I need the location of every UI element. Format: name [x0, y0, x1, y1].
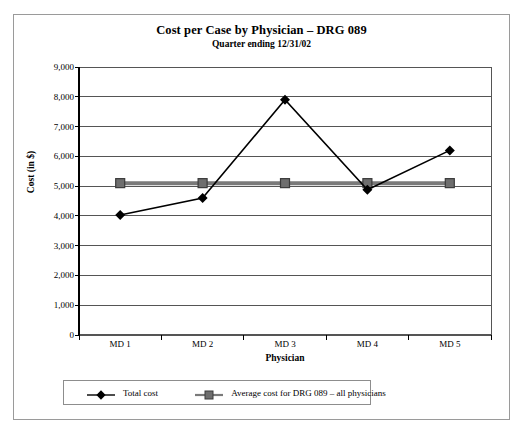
- x-axis-tick-label: MD 5: [409, 339, 491, 353]
- y-axis-tick-label: 8,000: [54, 92, 74, 102]
- y-axis-tick-label: 2,000: [54, 270, 74, 280]
- y-axis-tick-label: 7,000: [54, 122, 74, 132]
- x-axis-tick-label: MD 1: [79, 339, 161, 353]
- chart-title: Cost per Case by Physician – DRG 089: [14, 23, 509, 38]
- legend-entry-total-cost: Total cost: [86, 387, 158, 399]
- y-axis-tick-label: 1,000: [54, 300, 74, 310]
- data-point-marker-diamond: [445, 145, 455, 155]
- series-line-total-cost: [120, 100, 450, 215]
- y-axis-tick-label: 5,000: [54, 181, 74, 191]
- y-axis-tick-label: 3,000: [54, 241, 74, 251]
- title-block: Cost per Case by Physician – DRG 089 Qua…: [14, 23, 509, 51]
- plot-area: [79, 67, 491, 335]
- data-point-marker-square: [281, 179, 290, 188]
- chart-subtitle: Quarter ending 12/31/02: [14, 38, 509, 51]
- x-axis-tick-label: MD 3: [244, 339, 326, 353]
- legend-entry-average-cost: Average cost for DRG 089 – all physician…: [194, 387, 386, 399]
- chart-frame: Cost per Case by Physician – DRG 089 Qua…: [13, 14, 510, 420]
- x-axis-tick-labels: MD 1MD 2MD 3MD 4MD 5: [79, 339, 491, 353]
- y-axis-tick-label: 6,000: [54, 151, 74, 161]
- data-point-marker-square: [116, 179, 125, 188]
- x-axis-title: Physician: [79, 353, 491, 363]
- data-point-marker-square: [198, 179, 207, 188]
- chart-legend: Total cost Average cost for DRG 089 – al…: [63, 380, 371, 405]
- legend-label-total-cost: Total cost: [123, 388, 158, 398]
- legend-label-average-cost: Average cost for DRG 089 – all physician…: [231, 388, 386, 398]
- legend-square-marker-icon: [194, 387, 224, 399]
- plot-svg: [79, 67, 491, 335]
- y-axis-tick-label: 0: [70, 330, 75, 340]
- y-axis-tick-labels: 01,0002,0003,0004,0005,0006,0007,0008,00…: [14, 67, 74, 335]
- data-point-marker-square: [445, 179, 454, 188]
- data-point-marker-diamond: [115, 210, 125, 220]
- legend-diamond-marker-icon: [86, 387, 116, 399]
- y-axis-tick-label: 4,000: [54, 211, 74, 221]
- x-axis-tick-label: MD 2: [161, 339, 243, 353]
- y-axis-tick-label: 9,000: [54, 62, 74, 72]
- x-axis-tick-label: MD 4: [326, 339, 408, 353]
